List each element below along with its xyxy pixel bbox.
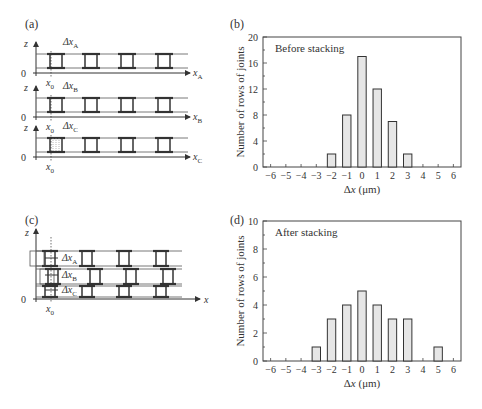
- x-axis-label: Δx (μm): [344, 377, 381, 390]
- x-tick-label: 4: [420, 170, 425, 181]
- bar: [434, 347, 442, 361]
- x-axis-label: Δx (μm): [344, 183, 381, 196]
- bar: [327, 319, 335, 361]
- delta-x-label: ΔxB: [61, 269, 77, 283]
- x0-label: x0: [45, 121, 54, 135]
- x-tick-label: −3: [311, 170, 322, 181]
- joint-icon: [45, 269, 61, 284]
- x-axis-label: xA: [192, 67, 203, 81]
- y-tick-label: 16: [248, 58, 258, 69]
- z-label: z: [23, 122, 28, 133]
- x-tick-label: 2: [390, 170, 395, 181]
- joint-icon: [155, 138, 173, 152]
- bar: [327, 154, 335, 167]
- y-axis-label: Number of rows of joints: [234, 235, 246, 346]
- z-label: z: [23, 82, 28, 93]
- x-tick-label: −4: [296, 364, 307, 375]
- joint-icon: [79, 286, 95, 297]
- x-tick-label: −1: [341, 364, 352, 375]
- origin-label: 0: [21, 152, 26, 163]
- delta-x-label: ΔxC: [62, 120, 78, 134]
- chart-after-stacking: 0246810−6−5−4−3−2−10123456After stacking…: [230, 205, 482, 409]
- joint-icon: [118, 98, 136, 112]
- delta-x-label: ΔxA: [61, 252, 77, 266]
- joint-icon: [123, 269, 139, 284]
- joint-icon: [118, 138, 136, 152]
- diagram-a-row-a: z0xAx0ΔxA: [21, 36, 203, 91]
- x-axis-label: xC: [192, 151, 202, 165]
- joint-icon: [153, 251, 169, 266]
- bar: [358, 291, 366, 361]
- chart-title: After stacking: [275, 226, 338, 238]
- y-tick-label: 10: [248, 216, 258, 227]
- x-tick-label: 1: [375, 170, 380, 181]
- x-tick-label: −2: [326, 170, 337, 181]
- chart-before-stacking: 048121620−6−5−4−3−2−10123456Before stack…: [230, 0, 482, 205]
- joint-icon: [155, 54, 173, 68]
- x-tick-label: 1: [375, 364, 380, 375]
- diagram-c: z0xx0ΔxAΔxBΔxC: [0, 205, 240, 335]
- y-tick-label: 0: [253, 356, 258, 367]
- y-tick-label: 2: [253, 328, 258, 339]
- x-tick-label: 5: [436, 170, 441, 181]
- x-tick-label: 3: [405, 170, 410, 181]
- y-tick-label: 6: [253, 272, 258, 283]
- x-tick-label: 3: [405, 364, 410, 375]
- x-tick-label: −6: [265, 170, 276, 181]
- y-tick-label: 8: [253, 244, 258, 255]
- joint-icon: [155, 98, 173, 112]
- x-tick-label: 6: [451, 364, 456, 375]
- x-axis-label: xB: [192, 111, 202, 125]
- chart-title: Before stacking: [275, 42, 345, 54]
- bar: [358, 57, 366, 168]
- joint-icon: [82, 138, 100, 152]
- joint-icon: [82, 54, 100, 68]
- bar: [343, 305, 351, 361]
- joint-icon: [47, 98, 65, 112]
- y-tick-label: 8: [253, 110, 258, 121]
- x-tick-label: −6: [265, 364, 276, 375]
- bar: [312, 347, 320, 361]
- y-tick-label: 20: [248, 32, 258, 43]
- x-tick-label: −2: [326, 364, 337, 375]
- delta-x-label: ΔxB: [62, 80, 78, 94]
- z-label: z: [24, 227, 29, 238]
- x-tick-label: −5: [281, 170, 292, 181]
- x0-label: x0: [45, 161, 54, 175]
- diagram-a-row-b: z0xBx0ΔxB: [21, 80, 202, 135]
- joint-icon: [116, 286, 132, 297]
- joint-icon: [118, 54, 136, 68]
- bar: [343, 115, 351, 167]
- x0-label: x0: [45, 77, 54, 91]
- bar: [373, 305, 381, 361]
- y-tick-label: 4: [253, 300, 258, 311]
- bar: [373, 89, 381, 167]
- joint-icon: [153, 286, 169, 297]
- origin-label: 0: [21, 294, 26, 305]
- x-tick-label: 0: [360, 170, 365, 181]
- bar: [388, 319, 396, 361]
- joint-icon: [47, 138, 65, 152]
- x-tick-label: 4: [420, 364, 425, 375]
- joint-icon: [47, 54, 65, 68]
- x-tick-label: 0: [360, 364, 365, 375]
- x0-label: x0: [45, 303, 54, 317]
- x-tick-label: −5: [281, 364, 292, 375]
- y-tick-label: 0: [253, 162, 258, 173]
- bar: [404, 319, 412, 361]
- delta-x-label: ΔxA: [62, 36, 78, 50]
- x-tick-label: 5: [436, 364, 441, 375]
- x-axis-label: x: [203, 294, 209, 305]
- y-tick-label: 4: [253, 136, 258, 147]
- joint-icon: [116, 251, 132, 266]
- joint-icon: [42, 286, 58, 297]
- bar: [388, 122, 396, 168]
- origin-label: 0: [21, 68, 26, 79]
- x-tick-label: −4: [296, 170, 307, 181]
- x-tick-label: 6: [451, 170, 456, 181]
- joint-icon: [82, 98, 100, 112]
- bar: [404, 154, 412, 167]
- z-label: z: [23, 38, 28, 49]
- x-tick-label: 2: [390, 364, 395, 375]
- joint-icon: [79, 251, 95, 266]
